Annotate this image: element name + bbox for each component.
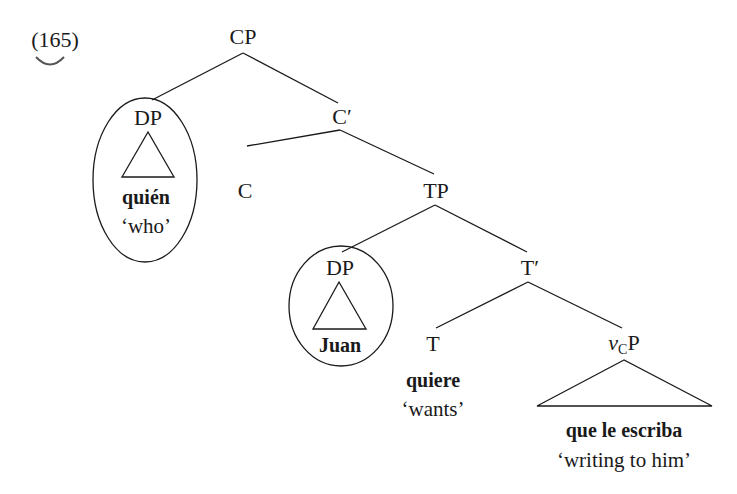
node-vcp-v: v [608, 330, 618, 355]
branch-cp-dp [152, 53, 243, 100]
node-tp: TP [423, 180, 449, 202]
branch-tp-tbar [435, 205, 527, 252]
branch-tp-dp [342, 205, 435, 252]
gloss-wants: ‘wants’ [402, 399, 465, 420]
node-c-bar: C′ [332, 106, 352, 128]
node-c: C [238, 180, 253, 202]
word-que-le-escriba: que le escriba [566, 420, 683, 440]
node-dp-spec-cp: DP [134, 107, 162, 129]
node-t: T [426, 333, 439, 355]
triangle-dp-juan [313, 282, 366, 329]
branch-cbar-tp [340, 130, 434, 174]
branch-cbar-c-line [247, 130, 340, 176]
branch-tbar-vcp [528, 282, 622, 328]
branch-cp-cbar [243, 53, 338, 103]
branch-tbar-t [436, 282, 528, 328]
node-vcp-subscript: C [618, 342, 627, 357]
branch-cbar-c [247, 130, 340, 146]
node-vcp-p: P [627, 330, 639, 355]
triangle-vcp [537, 360, 712, 406]
node-dp-spec-tp: DP [326, 257, 354, 279]
node-vcp: vCP [608, 332, 639, 357]
triangle-dp-quien [122, 132, 174, 177]
node-cp: CP [230, 26, 257, 48]
word-juan: Juan [319, 335, 361, 355]
word-quiere: quiere [406, 370, 460, 390]
smile-mark [36, 57, 64, 65]
gloss-who: ‘who’ [121, 216, 171, 237]
gloss-writing-to-him: ‘writing to him’ [557, 450, 691, 471]
node-t-bar: T′ [521, 257, 539, 279]
word-quien: quién [122, 187, 170, 207]
example-number: (165) [31, 29, 79, 51]
